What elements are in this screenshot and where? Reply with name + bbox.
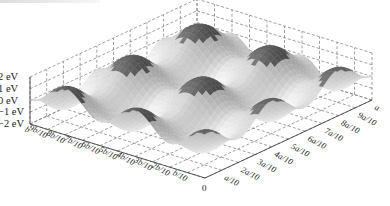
z-tick-label: −1 eV — [0, 107, 24, 117]
x-tick-label: 2a/10 — [239, 164, 261, 182]
z-tick-label: −2 eV — [0, 119, 24, 129]
x-tick-label: a — [373, 102, 381, 113]
z-tick-label: 2 eV — [0, 72, 18, 82]
z-tick-label: 0 eV — [0, 96, 18, 106]
z-tick-label: 1 eV — [0, 84, 18, 94]
surface-plot: a/102a/103a/104a/105a/106a/107a/108a/109… — [0, 0, 390, 206]
y-tick-label: b/10 — [171, 167, 190, 183]
x-tick-label: a/10 — [223, 172, 242, 188]
energy-surface — [30, 24, 372, 153]
origin-label: 0 — [202, 183, 207, 193]
